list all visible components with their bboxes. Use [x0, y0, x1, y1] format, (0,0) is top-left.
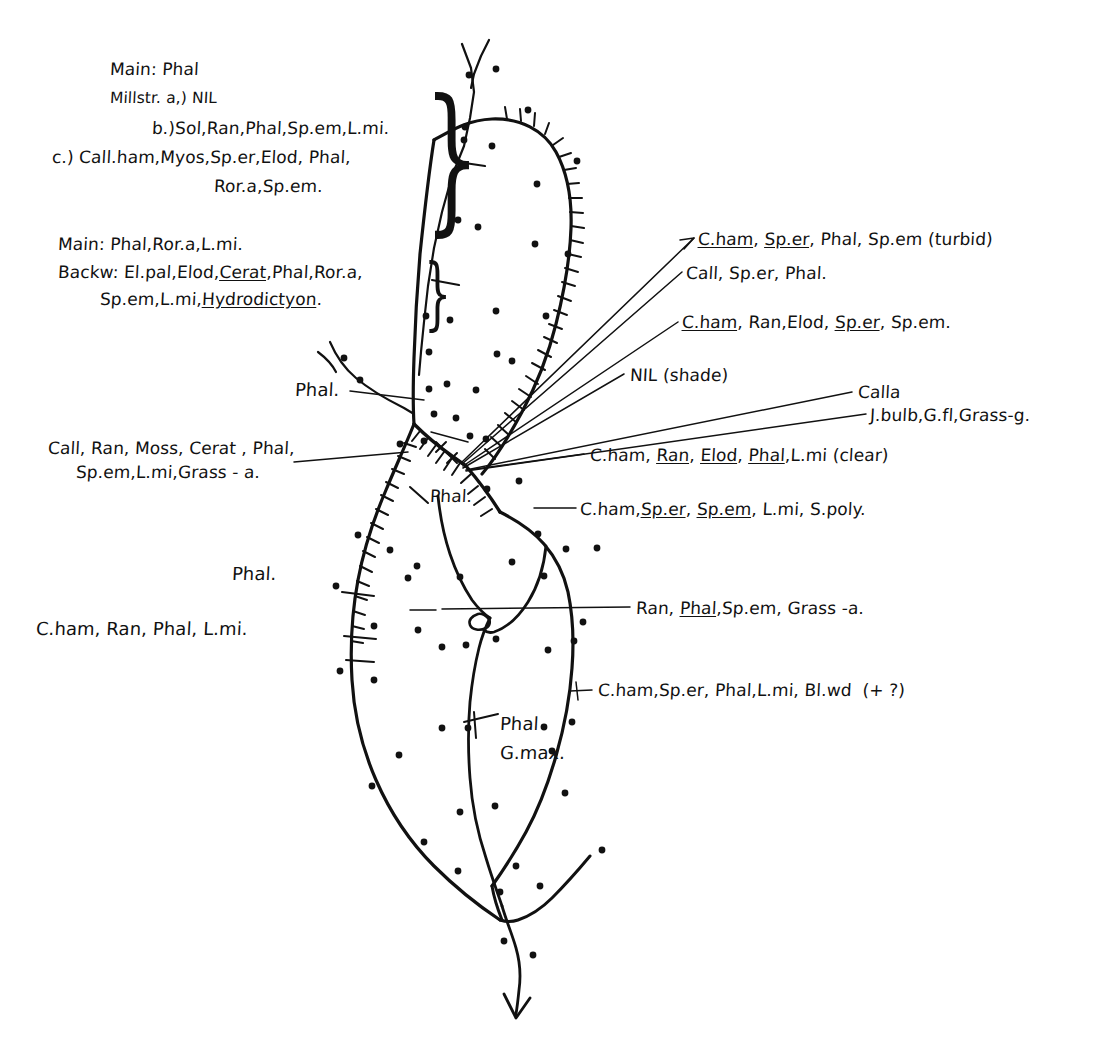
notes-lower-line-1: Main: Phal,Ror.a,L.mi. [57, 233, 243, 255]
notes-upper-line-1: Main: Phal [109, 58, 199, 80]
sketch-page: Main: Phal Millstr. a,) NIL b.)Sol,Ran,P… [0, 0, 1096, 1050]
annotation-clear: C.ham, Ran, Elod, Phal,L.mi (clear) [589, 444, 889, 466]
annotation-call-ran-moss-line1: Call, Ran, Moss, Cerat , Phal, [47, 437, 295, 459]
notes-lower-line-3: Sp.em,L.mi,Hydrodictyon. [99, 288, 322, 310]
notes-lower-line-2: Backw: El.pal,Elod,Cerat,Phal,Ror.a, [57, 261, 363, 283]
leader-line-blwd [570, 682, 592, 700]
annotation-call-sper-phal: Call, Sp.er, Phal. [685, 262, 827, 284]
annotation-spoly: C.ham,Sp.er, Sp.em, L.mi, S.poly. [579, 498, 866, 520]
brace-upper-notes: } [424, 78, 480, 238]
median-island-east-edge [484, 546, 546, 632]
leader-lines-loop-ticks [431, 432, 468, 442]
lower-basin-east-shore [492, 512, 573, 886]
notes-upper-line-3: b.)Sol,Ran,Phal,Sp.em,L.mi. [151, 117, 390, 139]
annotation-jbulb-gfl-grass: J.bulb,G.fl,Grass-g. [869, 404, 1030, 426]
leader-line-grass-a [410, 607, 630, 610]
lower-basin-west-shore [351, 424, 500, 920]
annotation-blwd: C.ham,Sp.er, Phal,L.mi, Bl.wd (+ ?) [597, 679, 905, 701]
leader-line-call-ran-moss [294, 452, 408, 462]
notes-upper-line-2: Millstr. a,) NIL [109, 88, 217, 108]
annotation-calla: Calla [857, 381, 901, 403]
annotation-phal-upper: Phal. [294, 378, 340, 401]
median-island-west-edge [438, 496, 502, 906]
tick-mark-phal-mid [410, 487, 428, 503]
annotation-phal-mid: Phal. [429, 485, 472, 507]
annotation-grass-a: Ran, Phal,Sp.em, Grass -a. [635, 597, 864, 619]
annotation-call-ran-moss-line2: Sp.em,L.mi,Grass - a. [75, 461, 260, 483]
annotation-phal-gmax-line2: G.max. [499, 741, 565, 764]
notes-upper-line-4: c.) Call.ham,Myos,Sp.er,Elod, Phal, [51, 146, 351, 168]
annotation-turbid: C.ham, Sp.er, Phal, Sp.em (turbid) [697, 228, 993, 250]
brace-lower-notes: } [424, 254, 451, 332]
notes-upper-line-5: Ror.a,Sp.em. [213, 175, 323, 197]
annotation-cham-ran-elod: C.ham, Ran,Elod, Sp.er, Sp.em. [681, 311, 951, 333]
annotation-cham-ran-phal-lmi: C.ham, Ran, Phal, L.mi. [35, 617, 248, 640]
annotation-nil-shade: NIL (shade) [629, 364, 728, 386]
annotation-phal-gmax-line1: Phal [499, 712, 539, 735]
annotation-phal-lower: Phal. [231, 562, 277, 585]
